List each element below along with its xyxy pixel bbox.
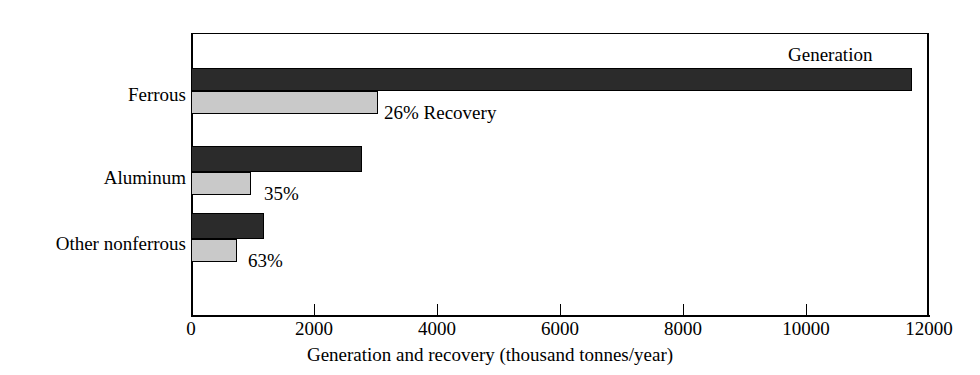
recovery-percent-label: 26% Recovery <box>384 103 496 122</box>
category-label: Other nonferrous <box>56 234 186 253</box>
x-axis-tick-label: 10000 <box>782 319 830 338</box>
recovery-percent-label: 35% <box>264 184 299 203</box>
bar-generation <box>191 146 362 172</box>
x-axis-title: Generation and recovery (thousand tonnes… <box>0 345 980 365</box>
x-axis-tick-label: 2000 <box>295 319 333 338</box>
x-axis-tick-label: 4000 <box>418 319 456 338</box>
x-axis-tick-label: 6000 <box>541 319 579 338</box>
bar-chart: Generation Ferrous26% RecoveryAluminum35… <box>0 0 980 375</box>
bar-generation <box>191 213 264 239</box>
x-axis-tick <box>560 304 561 315</box>
axis-riser-right <box>927 297 929 316</box>
axis-riser-left <box>191 297 193 316</box>
x-axis-tick <box>437 304 438 315</box>
x-axis-tick <box>314 304 315 315</box>
x-axis-tick-label: 0 <box>186 319 196 338</box>
generation-series-label: Generation <box>788 45 872 64</box>
bar-recovery <box>191 239 237 262</box>
x-axis-tick <box>683 304 684 315</box>
x-axis-tick <box>806 304 807 315</box>
x-axis-line <box>191 315 930 317</box>
recovery-percent-label: 63% <box>248 251 283 270</box>
category-label: Ferrous <box>128 85 186 104</box>
bar-recovery <box>191 91 378 114</box>
category-label: Aluminum <box>104 168 186 187</box>
x-axis-tick-label: 8000 <box>664 319 702 338</box>
x-axis-tick-label: 12000 <box>905 319 953 338</box>
bar-recovery <box>191 172 251 195</box>
bar-generation <box>191 68 912 91</box>
